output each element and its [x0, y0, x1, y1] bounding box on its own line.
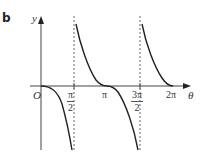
tick-label-3pi-over-2: 3π 2 [131, 90, 143, 113]
panel-label: b [2, 12, 11, 24]
tick-label-pi-over-2: π 2 [67, 90, 74, 113]
curve-branch-3 [142, 24, 173, 86]
x-axis-label: θ [188, 90, 193, 101]
y-axis-arrow-icon [38, 16, 44, 24]
origin-label: O [33, 90, 41, 101]
y-axis-label: y [32, 13, 37, 24]
curve-branch-2 [76, 24, 138, 150]
tick-label-pi: π [102, 90, 107, 100]
tick-label-2pi: 2π [166, 90, 176, 100]
plot-canvas [0, 0, 202, 160]
